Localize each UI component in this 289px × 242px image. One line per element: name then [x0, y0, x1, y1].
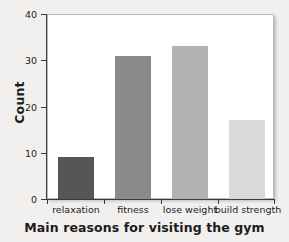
y-tick-mark-40 — [41, 14, 46, 15]
bar-chart-figure: Count 40 30 20 10 0 relaxation fitness l… — [0, 0, 289, 242]
y-tick-mark-10 — [41, 153, 46, 154]
y-tick-label-10: 10 — [15, 148, 37, 159]
x-tick-label-lose-weight: lose weight — [160, 204, 220, 215]
x-tick-label-fitness: fitness — [103, 204, 163, 215]
y-tick-label-40: 40 — [15, 9, 37, 20]
bar-lose-weight[interactable] — [172, 46, 208, 199]
y-tick-mark-0 — [41, 199, 46, 200]
y-axis-line — [46, 14, 47, 200]
x-tick-label-build-strength: build strength — [212, 204, 284, 215]
y-tick-label-0: 0 — [15, 194, 37, 205]
x-axis-title: Main reasons for visiting the gym — [0, 220, 289, 235]
bar-build-strength[interactable] — [229, 120, 265, 199]
y-tick-label-30: 30 — [15, 55, 37, 66]
y-tick-mark-20 — [41, 107, 46, 108]
y-tick-mark-30 — [41, 60, 46, 61]
x-axis-line — [42, 199, 275, 200]
x-tick-label-relaxation: relaxation — [46, 204, 106, 215]
y-tick-label-20: 20 — [15, 102, 37, 113]
bar-relaxation[interactable] — [58, 157, 94, 199]
bar-fitness[interactable] — [115, 56, 151, 199]
